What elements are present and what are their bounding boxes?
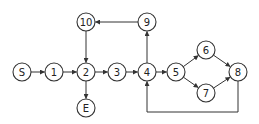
- edge-6-to-8: [213, 55, 230, 67]
- node-label: 7: [203, 88, 209, 99]
- node-label: 1: [51, 67, 57, 78]
- node-label: 4: [144, 67, 150, 78]
- node-S: S: [13, 63, 31, 81]
- edge-8-to-4: [147, 81, 238, 112]
- node-2: 2: [77, 63, 95, 81]
- node-5: 5: [167, 63, 185, 81]
- node-10: 10: [77, 13, 95, 31]
- node-label: 5: [173, 67, 179, 78]
- edge-5-to-6: [183, 56, 198, 67]
- node-label: 6: [203, 45, 209, 56]
- node-3: 3: [108, 63, 126, 81]
- node-label: 3: [114, 67, 120, 78]
- node-label: S: [19, 67, 25, 78]
- node-1: 1: [45, 63, 63, 81]
- node-label: 2: [83, 67, 89, 78]
- node-label: 8: [235, 67, 241, 78]
- node-9: 9: [138, 13, 156, 31]
- edge-7-to-8: [214, 77, 231, 88]
- node-label: 10: [80, 17, 93, 28]
- flow-graph: S12345678910E: [0, 0, 259, 124]
- nodes: S12345678910E: [13, 13, 247, 117]
- node-7: 7: [197, 84, 215, 102]
- node-E: E: [77, 99, 95, 117]
- node-6: 6: [197, 41, 215, 59]
- node-label: 9: [144, 17, 150, 28]
- node-4: 4: [138, 63, 156, 81]
- node-label: E: [83, 103, 89, 114]
- edge-5-to-7: [183, 77, 198, 87]
- node-8: 8: [229, 63, 247, 81]
